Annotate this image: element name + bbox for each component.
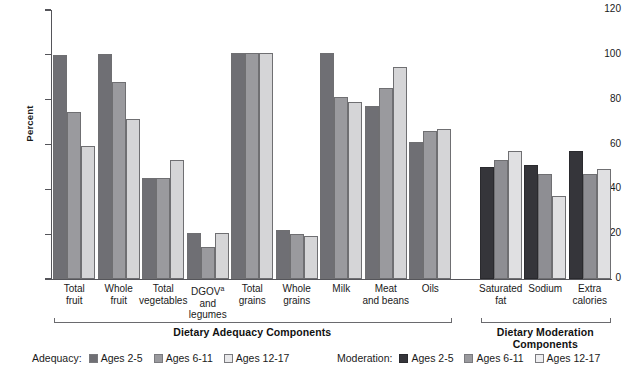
bar-group (141, 10, 186, 279)
bar-group (568, 10, 613, 279)
bar[interactable] (215, 233, 229, 279)
legend-item-moderation-0[interactable]: Ages 2-5 (399, 352, 453, 364)
bar[interactable] (259, 53, 273, 279)
y-tick-mark (45, 54, 51, 55)
bar[interactable] (276, 230, 290, 279)
legend-label: Ages 6-11 (476, 352, 523, 364)
bar[interactable] (480, 167, 494, 279)
legend-adequacy: Adequacy: Ages 2-5 Ages 6-11 Ages 12-17 (32, 352, 296, 364)
bar[interactable] (494, 160, 508, 279)
legend-moderation: Moderation: Ages 2-5 Ages 6-11 Ages 12-1… (337, 352, 607, 364)
bar[interactable] (583, 174, 597, 279)
section-bracket-cap (481, 318, 482, 323)
y-tick-mark (45, 9, 51, 10)
bar[interactable] (597, 169, 611, 279)
legend-swatch-icon (464, 354, 473, 363)
bar[interactable] (245, 53, 259, 279)
y-tick-mark (45, 99, 51, 100)
bar[interactable] (365, 106, 379, 279)
y-tick-mark (45, 278, 51, 279)
bar[interactable] (290, 234, 304, 279)
bar[interactable] (320, 53, 334, 279)
bar-group (479, 10, 524, 279)
legend-adequacy-title: Adequacy: (32, 352, 82, 364)
legend-item-moderation-1[interactable]: Ages 6-11 (464, 352, 523, 364)
section-bracket-line (54, 322, 451, 323)
legend-item-adequacy-0[interactable]: Ages 2-5 (89, 352, 143, 364)
bar[interactable] (53, 55, 67, 279)
legend-swatch-icon (224, 354, 233, 363)
bar[interactable] (126, 119, 140, 279)
legend-label: Ages 12-17 (236, 352, 290, 364)
legend-swatch-icon (154, 354, 163, 363)
section-bracket-line (481, 322, 611, 323)
bar[interactable] (379, 88, 393, 279)
legend-label: Ages 2-5 (101, 352, 143, 364)
legend-swatch-icon (535, 354, 544, 363)
legend-moderation-title: Moderation: (337, 352, 392, 364)
bar-group (275, 10, 320, 279)
bar-group (97, 10, 142, 279)
bar[interactable] (81, 146, 95, 279)
bar[interactable] (112, 82, 126, 279)
section-bracket-cap (610, 318, 611, 323)
legend-label: Ages 12-17 (547, 352, 601, 364)
legend-item-moderation-2[interactable]: Ages 12-17 (535, 352, 601, 364)
bar[interactable] (409, 142, 423, 279)
bar[interactable] (508, 151, 522, 279)
bar-group (408, 10, 453, 279)
bar[interactable] (423, 131, 437, 279)
section-bracket-cap (451, 318, 452, 323)
legend-item-adequacy-1[interactable]: Ages 6-11 (154, 352, 213, 364)
legend-swatch-icon (89, 354, 98, 363)
plot-area (52, 10, 612, 279)
y-tick-mark (45, 234, 51, 235)
x-category-label: Extracalories (552, 283, 626, 306)
bar[interactable] (98, 54, 112, 279)
bar[interactable] (393, 67, 407, 279)
bar[interactable] (67, 112, 81, 279)
bar[interactable] (348, 102, 362, 279)
y-tick-mark (45, 189, 51, 190)
legend-swatch-icon (399, 354, 408, 363)
bar[interactable] (538, 174, 552, 279)
section-label: Dietary Moderation Components (481, 326, 611, 350)
bar-group (319, 10, 364, 279)
x-category-label: Oils (392, 283, 468, 295)
bar[interactable] (156, 178, 170, 279)
bar[interactable] (170, 160, 184, 279)
section-label: Dietary Adequacy Components (54, 326, 451, 338)
bar-group (364, 10, 409, 279)
legend-label: Ages 6-11 (166, 352, 213, 364)
bar[interactable] (437, 129, 451, 279)
y-axis-title: Percent (24, 94, 35, 154)
bar-group (230, 10, 275, 279)
bar[interactable] (142, 178, 156, 279)
legend-item-adequacy-2[interactable]: Ages 12-17 (224, 352, 290, 364)
section-bracket-cap (54, 318, 55, 323)
bar[interactable] (201, 247, 215, 280)
legend-label: Ages 2-5 (411, 352, 453, 364)
bar[interactable] (524, 165, 538, 279)
bar-group (523, 10, 568, 279)
bar[interactable] (334, 97, 348, 279)
bar[interactable] (231, 53, 245, 279)
bar[interactable] (569, 151, 583, 279)
bar[interactable] (552, 196, 566, 279)
y-tick-mark (45, 144, 51, 145)
bar-group (186, 10, 231, 279)
bar[interactable] (187, 233, 201, 279)
bar-group (52, 10, 97, 279)
bar[interactable] (304, 236, 318, 279)
x-axis-line (51, 279, 612, 280)
